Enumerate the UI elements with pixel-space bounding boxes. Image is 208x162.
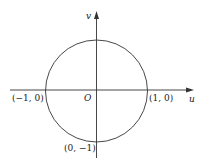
diagram-canvas: v u O (−1, 0) (1, 0) (0, −1)	[0, 0, 208, 162]
u-axis-label: u	[189, 94, 195, 104]
origin-label: O	[84, 93, 92, 103]
v-axis-arrow-icon	[94, 11, 99, 19]
v-axis-label: v	[86, 11, 91, 21]
right-intercept-label: (1, 0)	[149, 93, 173, 103]
bottom-intercept-label: (0, −1)	[64, 143, 96, 153]
u-axis-arrow-icon	[186, 88, 194, 93]
left-intercept-label: (−1, 0)	[12, 93, 44, 103]
